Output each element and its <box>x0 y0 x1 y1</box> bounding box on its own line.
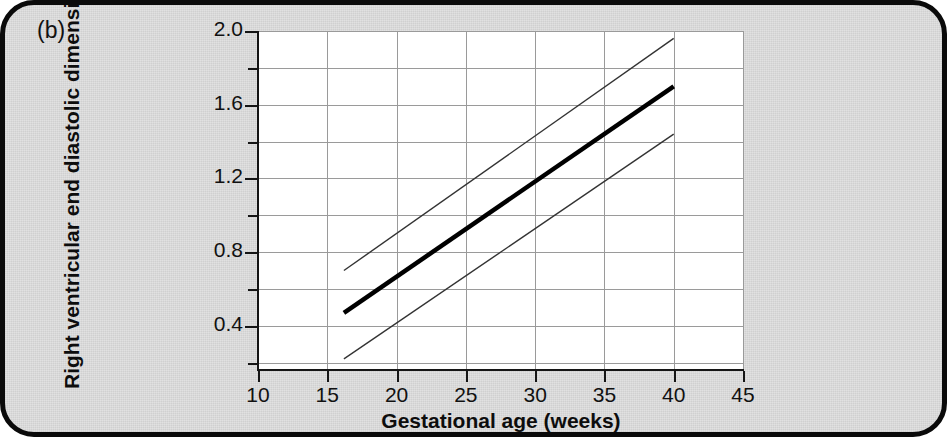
gridline-vertical <box>743 31 744 370</box>
y-axis-tick <box>245 178 259 180</box>
figure-panel: (b) Right ventricular end diastolic dime… <box>0 0 947 437</box>
y-axis-tick <box>245 326 259 328</box>
series-lines <box>258 31 743 370</box>
y-axis-tick-label: 0.8 <box>185 238 243 262</box>
x-axis-tick-label: 45 <box>717 383 769 407</box>
y-axis-minor-tick <box>248 68 259 70</box>
x-axis-tick-label: 15 <box>301 383 353 407</box>
y-axis-tick-label: 1.2 <box>185 164 243 188</box>
y-axis-line <box>257 31 259 371</box>
x-axis-tick-label: 30 <box>509 383 561 407</box>
plot-area <box>258 31 743 370</box>
x-axis-tick <box>466 371 468 382</box>
y-axis-title: Right ventricular end diastolic dimensio… <box>60 0 84 389</box>
y-axis-minor-tick <box>248 215 259 217</box>
x-axis-line <box>258 369 744 371</box>
y-axis-minor-tick <box>248 289 259 291</box>
x-axis-title: Gestational age (weeks) <box>258 409 744 433</box>
x-axis-tick-label: 10 <box>232 383 284 407</box>
x-axis-tick <box>535 371 537 382</box>
y-axis-minor-tick <box>248 363 259 365</box>
y-axis-tick <box>245 31 259 33</box>
x-axis-tick-label: 20 <box>371 383 423 407</box>
x-axis-tick <box>604 371 606 382</box>
series-line <box>344 86 674 313</box>
series-line <box>344 134 674 359</box>
x-axis-tick <box>674 371 676 382</box>
x-axis-tick <box>327 371 329 382</box>
series-line <box>344 38 674 270</box>
x-axis-tick-label: 40 <box>648 383 700 407</box>
x-axis-tick-label: 35 <box>578 383 630 407</box>
y-axis-tick-label: 2.0 <box>185 17 243 41</box>
x-axis-tick-label: 25 <box>440 383 492 407</box>
y-axis-tick-label: 1.6 <box>185 91 243 115</box>
x-axis-tick <box>743 371 745 382</box>
x-axis-tick <box>397 371 399 382</box>
y-axis-tick <box>245 252 259 254</box>
y-axis-minor-tick <box>248 142 259 144</box>
y-axis-tick-label: 0.4 <box>185 312 243 336</box>
y-axis-tick <box>245 105 259 107</box>
x-axis-tick <box>258 371 260 382</box>
